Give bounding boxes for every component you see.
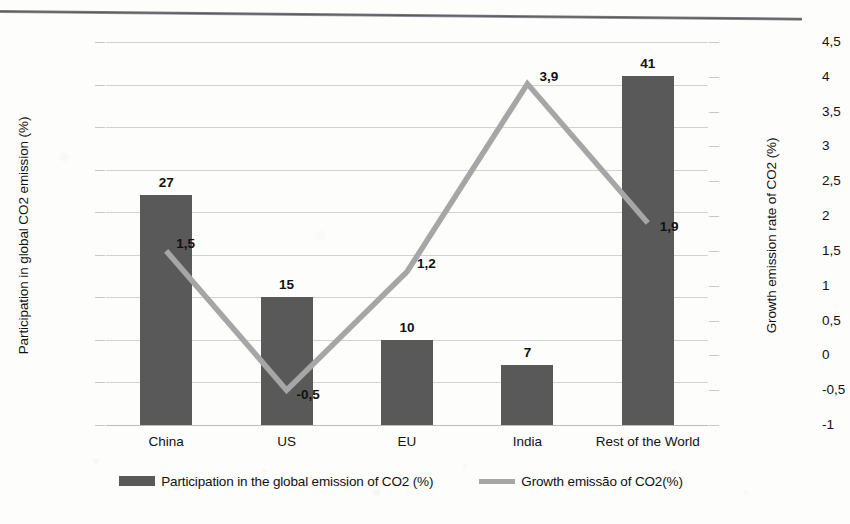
right-axis-tick-label: 4: [822, 70, 850, 84]
bar-swatch-icon: [119, 476, 155, 486]
left-tick-mark: [95, 85, 105, 86]
line-value-label: 1,9: [660, 220, 679, 234]
right-tick-mark: [709, 146, 719, 147]
gridline: [106, 425, 708, 426]
line-series: 1,5-0,51,23,91,9: [106, 42, 708, 425]
left-tick-mark: [95, 255, 105, 256]
chart-legend: Participation in the global emission of …: [0, 468, 802, 494]
right-tick-mark: [709, 355, 719, 356]
left-tick-mark: [95, 297, 105, 298]
right-tick-mark: [709, 42, 719, 43]
right-axis-tick-label: -1: [822, 418, 850, 432]
right-tick-mark: [709, 112, 719, 113]
right-tick-mark: [709, 77, 719, 78]
left-tick-mark: [95, 382, 105, 383]
right-axis-tick-label: 4,5: [822, 35, 850, 49]
right-axis-title: Growth emission rate of CO2 (%): [764, 66, 779, 406]
plot-area: 051015202530354045 -1-0,500,511,522,533,…: [106, 42, 708, 425]
left-axis-title: Participation in global CO2 emission (%): [16, 66, 31, 406]
right-axis-tick-label: 1: [822, 279, 850, 293]
line-value-label: 1,2: [417, 257, 436, 271]
legend-item-line: Growth emissão of CO2(%): [479, 474, 682, 489]
left-tick-mark: [95, 340, 105, 341]
right-tick-mark: [709, 390, 719, 391]
right-axis-tick-label: 1,5: [822, 244, 850, 258]
line-value-label: 1,5: [176, 237, 195, 251]
legend-label-bar: Participation in the global emission of …: [161, 474, 433, 489]
right-axis-tick-label: 3,5: [822, 105, 850, 119]
right-tick-mark: [709, 251, 719, 252]
right-tick-mark: [709, 181, 719, 182]
right-tick-mark: [709, 286, 719, 287]
growth-line-path: [106, 42, 708, 425]
right-tick-mark: [709, 321, 719, 322]
line-swatch-icon: [479, 479, 515, 484]
legend-label-line: Growth emissão of CO2(%): [521, 474, 682, 489]
right-axis-tick-label: 3: [822, 139, 850, 153]
right-axis-tick-label: 2,5: [822, 174, 850, 188]
right-tick-mark: [709, 216, 719, 217]
left-tick-mark: [95, 127, 105, 128]
right-axis-tick-label: 0,5: [822, 314, 850, 328]
left-tick-mark: [95, 425, 105, 426]
legend-item-bar: Participation in the global emission of …: [119, 474, 433, 489]
right-tick-mark: [709, 425, 719, 426]
left-tick-mark: [95, 42, 105, 43]
right-axis-tick-label: 2: [822, 209, 850, 223]
right-axis-tick-label: 0: [822, 348, 850, 362]
line-value-label: -0,5: [297, 388, 320, 402]
category-label-rest-of-the-world: Rest of the World: [573, 435, 723, 449]
left-tick-mark: [95, 212, 105, 213]
left-tick-mark: [95, 170, 105, 171]
line-value-label: 3,9: [539, 70, 558, 84]
right-axis-tick-label: -0,5: [822, 383, 850, 397]
